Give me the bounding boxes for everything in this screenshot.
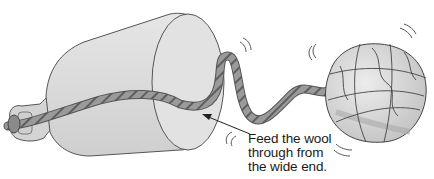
- caption-line-1: Feed the wool: [248, 132, 332, 146]
- wool-bottle-illustration: [0, 0, 434, 179]
- bottle-base: [152, 14, 224, 150]
- caption-line-3: the wide end.: [248, 160, 332, 174]
- caption: Feed the wool through from the wide end.: [248, 132, 332, 174]
- wool-knot: [8, 115, 20, 133]
- caption-line-2: through from: [248, 146, 332, 160]
- wool-ball: [326, 44, 427, 143]
- bottle: [9, 13, 224, 156]
